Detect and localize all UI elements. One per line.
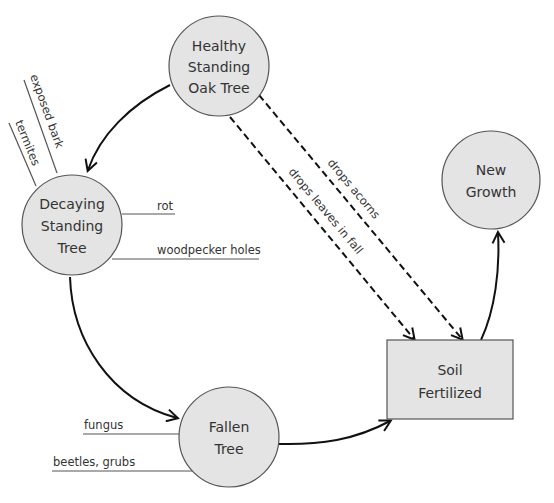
node-label-line: New xyxy=(476,162,507,178)
node-label-line: Tree xyxy=(56,240,86,256)
node-label-line: Fertilized xyxy=(418,385,482,401)
node-label-line: Tree xyxy=(213,441,243,457)
node-soil-fertilized: Soil Fertilized xyxy=(387,340,513,419)
arrow-fallen-to-soil xyxy=(279,421,390,444)
node-label-line: Growth xyxy=(466,184,517,200)
arrow-soil-to-growth xyxy=(481,233,498,340)
arrow-healthy-to-decaying xyxy=(88,85,170,170)
arrow-decaying-to-fallen xyxy=(70,277,177,418)
node-new-growth: New Growth xyxy=(442,131,540,229)
dashed-arrow-drops-acorns xyxy=(259,95,462,339)
annotation-fungus: fungus xyxy=(84,418,123,432)
annotation-beetles-grubs: beetles, grubs xyxy=(53,455,135,469)
node-healthy-standing-oak-tree: Healthy Standing Oak Tree xyxy=(169,16,269,116)
node-label-line: Oak Tree xyxy=(188,80,249,96)
node-label-line: Decaying xyxy=(39,196,105,212)
node-label-line: Soil xyxy=(437,362,462,378)
node-label-line: Standing xyxy=(41,218,103,234)
dashed-arrow-drops-leaves xyxy=(230,117,414,339)
node-fallen-tree: Fallen Tree xyxy=(179,387,279,487)
node-label-line: Healthy xyxy=(192,38,246,54)
annotation-rot: rot xyxy=(157,199,174,213)
annotation-woodpecker-holes: woodpecker holes xyxy=(157,243,261,257)
node-decaying-standing-tree: Decaying Standing Tree xyxy=(22,175,122,275)
node-label-line: Fallen xyxy=(209,419,250,435)
node-label-line: Standing xyxy=(188,59,250,75)
oak-tree-cycle-diagram: drops acorns drops leaves in fall expose… xyxy=(0,0,554,503)
